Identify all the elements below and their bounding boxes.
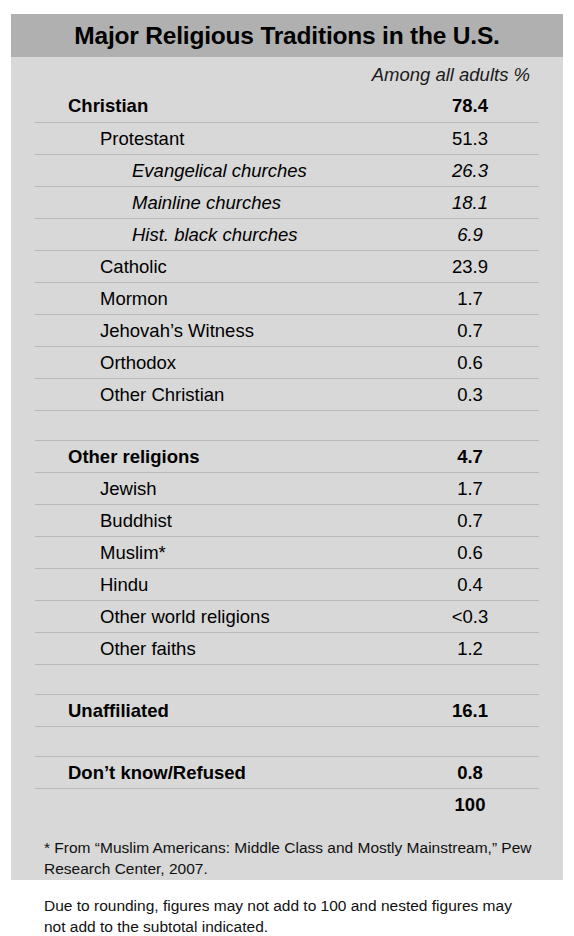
row-value: 78.4	[35, 95, 539, 117]
row-value: 4.7	[35, 446, 539, 468]
table-row: Buddhist0.7	[35, 504, 539, 536]
table-row: Catholic23.9	[35, 250, 539, 282]
row-value: 0.6	[35, 352, 539, 374]
table-row: Hindu0.4	[35, 568, 539, 600]
table-row: Hist. black churches6.9	[35, 218, 539, 250]
footnote: Due to rounding, figures may not add to …	[44, 895, 533, 936]
row-value: 100	[35, 794, 539, 816]
table-row: Orthodox0.6	[35, 346, 539, 378]
row-value: 1.7	[35, 478, 539, 500]
table-row: Mormon1.7	[35, 282, 539, 314]
table-row: Christian78.4	[35, 90, 539, 122]
table-row: Evangelical churches26.3	[35, 154, 539, 186]
table-spacer-row	[35, 664, 539, 694]
row-value: 0.8	[35, 762, 539, 784]
row-value: 23.9	[35, 256, 539, 278]
row-value: 26.3	[35, 160, 539, 182]
data-table: Christian78.4Protestant51.3Evangelical c…	[11, 90, 563, 820]
table-row: 100	[35, 788, 539, 820]
table-row: Muslim*0.6	[35, 536, 539, 568]
row-value: 1.2	[35, 638, 539, 660]
row-value: <0.3	[35, 606, 539, 628]
row-value: 6.9	[35, 224, 539, 246]
table-row: Mainline churches18.1	[35, 186, 539, 218]
table-row: Jewish1.7	[35, 472, 539, 504]
table-row: Other world religions<0.3	[35, 600, 539, 632]
table-row: Don’t know/Refused0.8	[35, 756, 539, 788]
page-title: Major Religious Traditions in the U.S.	[74, 22, 499, 50]
row-value: 18.1	[35, 192, 539, 214]
column-header-row: Among all adults %	[11, 57, 563, 90]
table-spacer-row	[35, 410, 539, 440]
row-value: 0.7	[35, 320, 539, 342]
column-header-among-all-adults: Among all adults %	[372, 64, 530, 86]
row-value: 51.3	[35, 128, 539, 150]
row-value: 0.4	[35, 574, 539, 596]
row-value: 16.1	[35, 700, 539, 722]
row-value: 0.3	[35, 384, 539, 406]
table-row: Other Christian0.3	[35, 378, 539, 410]
row-value: 0.6	[35, 542, 539, 564]
table-row: Protestant51.3	[35, 122, 539, 154]
table-row: Jehovah’s Witness0.7	[35, 314, 539, 346]
table-spacer-row	[35, 726, 539, 756]
table-row: Unaffiliated16.1	[35, 694, 539, 726]
table-row: Other religions4.7	[35, 440, 539, 472]
card-title-band: Major Religious Traditions in the U.S.	[11, 14, 563, 57]
footnote: * From “Muslim Americans: Middle Class a…	[44, 837, 533, 879]
religious-traditions-table-card: Major Religious Traditions in the U.S. A…	[11, 14, 563, 880]
footnote-block: * From “Muslim Americans: Middle Class a…	[11, 820, 563, 936]
table-row: Other faiths1.2	[35, 632, 539, 664]
row-value: 0.7	[35, 510, 539, 532]
row-value: 1.7	[35, 288, 539, 310]
